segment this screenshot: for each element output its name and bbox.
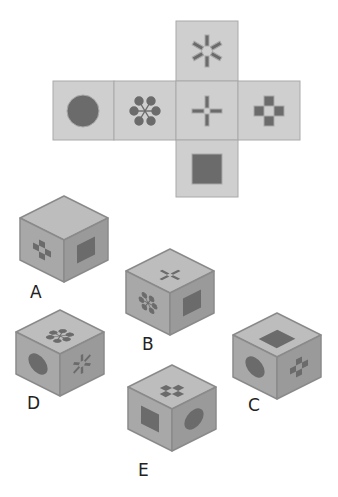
option-label-c[interactable]: C — [248, 397, 260, 414]
net-face-center — [176, 81, 238, 140]
square-icon — [192, 154, 222, 184]
option-label-b[interactable]: B — [142, 336, 154, 353]
cube-net — [53, 21, 300, 197]
cube-option-a[interactable] — [20, 196, 108, 282]
circle-icon — [67, 95, 99, 127]
puzzle-canvas — [0, 0, 338, 497]
cube-option-c[interactable] — [233, 313, 321, 399]
net-face-left-1 — [114, 81, 176, 140]
cube-option-b[interactable] — [126, 249, 214, 335]
net-face-left-2 — [53, 81, 114, 140]
net-face-bottom — [176, 140, 238, 197]
option-label-d[interactable]: D — [27, 395, 40, 412]
net-face-top — [176, 21, 238, 81]
cube-option-e[interactable] — [128, 365, 216, 451]
option-label-e[interactable]: E — [138, 462, 149, 479]
option-label-a[interactable]: A — [30, 284, 42, 301]
cube-option-d[interactable] — [16, 310, 104, 396]
net-face-right — [238, 81, 300, 140]
answer-options — [16, 196, 321, 451]
